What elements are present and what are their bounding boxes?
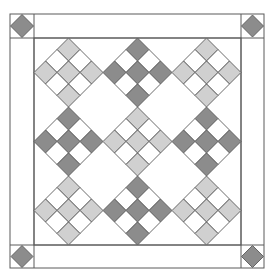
nine-patch-block-r1c2: [103, 38, 172, 107]
nine-patch-block-r2c1: [34, 107, 103, 176]
corner-diamond-top-left: [11, 15, 34, 38]
nine-patch-block-r1c3: [172, 38, 241, 107]
nine-patch-block-r3c3: [172, 176, 241, 245]
corner-diamond-bottom-right: [242, 246, 264, 268]
nine-patch-block-r3c2: [103, 176, 172, 245]
nine-patch-block-r2c3: [172, 107, 241, 176]
nine-patch-blocks: [34, 38, 241, 245]
nine-patch-block-r3c1: [34, 176, 103, 245]
nine-patch-block-r1c1: [34, 38, 103, 107]
corner-diamond-top-right: [242, 15, 264, 37]
nine-patch-block-r2c2: [103, 107, 172, 176]
corner-diamond-bottom-left: [11, 246, 33, 268]
quilt-diagram: [0, 0, 269, 276]
